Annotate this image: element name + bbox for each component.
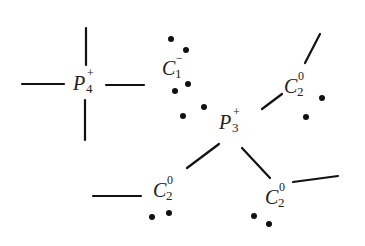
atom-charge: 0	[279, 180, 285, 194]
electron-dot	[166, 210, 172, 216]
atom-symbol: P	[218, 111, 231, 133]
electron-dot	[172, 88, 178, 94]
bonding-diagram: P4+C1−P3+C20C20C20	[0, 0, 365, 246]
atom-subscript: 2	[166, 188, 173, 203]
atom-charge: +	[233, 105, 240, 119]
atom-symbol: C	[162, 57, 176, 79]
atom-label-c2-lower-left: C20	[153, 173, 173, 203]
atom-label-c2-upper-right: C20	[284, 69, 304, 99]
bond-line-p3-c2ll	[187, 144, 219, 168]
electron-dot	[149, 214, 155, 220]
atom-label-c1: C1−	[162, 51, 183, 81]
atom-label-p4: P4+	[72, 66, 94, 96]
electron-dot	[183, 47, 189, 53]
atom-subscript: 1	[175, 66, 182, 81]
atom-label-p3: P3+	[218, 105, 240, 135]
atom-symbol: C	[153, 179, 167, 201]
electron-dot	[180, 113, 186, 119]
bond-line-c2ur-top	[305, 34, 320, 63]
electron-dot	[168, 36, 174, 42]
atom-subscript: 3	[232, 120, 239, 135]
electron-dot	[303, 114, 309, 120]
electron-dot	[185, 81, 191, 87]
atom-subscript: 2	[297, 84, 304, 99]
atom-charge: 0	[298, 69, 304, 83]
atom-symbol: C	[265, 186, 279, 208]
atom-label-c2-lower-right: C20	[265, 180, 285, 210]
atom-charge: 0	[167, 173, 173, 187]
bond-line-p3-c2lr	[242, 148, 270, 178]
bond-line-p3-c2ur	[262, 94, 282, 109]
bond-line-c2lr-right	[293, 176, 338, 182]
atom-subscript: 2	[278, 195, 285, 210]
atom-symbol: P	[72, 72, 85, 94]
electron-dot	[266, 221, 272, 227]
atom-labels: P4+C1−P3+C20C20C20	[72, 51, 304, 210]
electron-dot	[201, 104, 207, 110]
atom-subscript: 4	[86, 81, 93, 96]
atom-charge: +	[87, 66, 94, 80]
electron-dot	[319, 95, 325, 101]
atom-symbol: C	[284, 75, 298, 97]
atom-charge: −	[176, 51, 183, 65]
electron-dot	[251, 213, 257, 219]
